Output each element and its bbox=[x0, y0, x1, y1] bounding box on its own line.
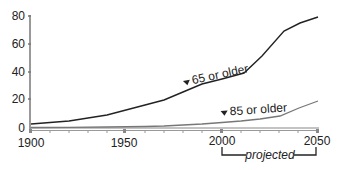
y-tick-label-80: 80 bbox=[12, 9, 26, 23]
x-tick-label-1950: 1950 bbox=[111, 136, 138, 150]
y-tick-label-60: 60 bbox=[12, 37, 26, 51]
pointer-arrow-icon bbox=[183, 80, 191, 86]
y-tick-label-20: 20 bbox=[12, 92, 26, 106]
label-65-or-older: 65 or older bbox=[182, 61, 250, 88]
x-tick-label-2050: 2050 bbox=[304, 134, 331, 148]
y-tick-label-0: 0 bbox=[18, 121, 25, 135]
y-tick-label-40: 40 bbox=[12, 65, 26, 79]
svg-text:65 or older: 65 or older bbox=[191, 61, 250, 87]
x-tick-label-1900: 1900 bbox=[18, 136, 45, 150]
pointer-arrow-icon bbox=[221, 111, 228, 116]
projected-label: projected bbox=[244, 148, 295, 162]
x-tick-label-2000: 2000 bbox=[209, 134, 236, 148]
line-chart: 80 60 40 20 0 1900 1950 2000 2050 65 or … bbox=[0, 0, 337, 170]
